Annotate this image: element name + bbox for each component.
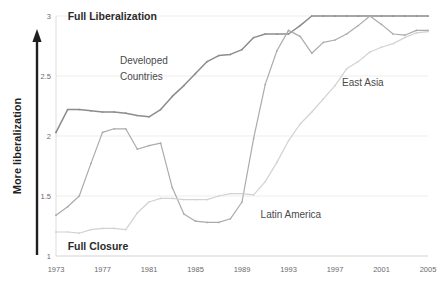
annotation-full-liberalization: Full Liberalization	[68, 10, 157, 22]
data-point	[404, 37, 406, 39]
data-point	[276, 33, 278, 35]
data-point	[311, 15, 313, 17]
gridlines	[56, 16, 428, 256]
data-point	[311, 111, 313, 113]
data-point	[392, 43, 394, 45]
data-point	[148, 116, 150, 118]
annotation-east-asia: East Asia	[342, 77, 384, 88]
data-point	[230, 54, 232, 56]
data-point	[67, 109, 69, 111]
data-point	[241, 49, 243, 51]
y-axis-title: More liberalization	[11, 97, 23, 194]
data-point	[253, 194, 255, 196]
data-point	[299, 25, 301, 27]
data-point	[55, 132, 57, 134]
annotation-full-closure: Full Closure	[68, 240, 129, 252]
annotation-developed: Developed	[120, 55, 168, 66]
data-point	[264, 84, 266, 86]
data-series	[55, 15, 429, 234]
data-point	[137, 212, 139, 214]
data-point	[392, 33, 394, 35]
y-tick-label: 2.5	[41, 72, 51, 81]
data-point	[276, 162, 278, 164]
x-axis: 197319771981198519891993199720012005	[48, 256, 437, 274]
data-point	[183, 199, 185, 201]
annotation-countries: Countries	[120, 71, 163, 82]
data-point	[125, 112, 127, 114]
data-point	[78, 195, 80, 197]
data-point	[148, 201, 150, 203]
data-point	[288, 33, 290, 35]
x-tick-label: 1997	[327, 265, 344, 274]
data-point	[67, 231, 69, 233]
y-tick-label: 3	[47, 12, 51, 21]
data-point	[90, 110, 92, 112]
data-point	[90, 229, 92, 231]
y-tick-label: 1.5	[41, 192, 51, 201]
y-axis-arrow	[32, 29, 41, 255]
x-tick-label: 1985	[187, 265, 204, 274]
data-point	[299, 123, 301, 125]
data-point	[206, 222, 208, 224]
data-point	[148, 145, 150, 147]
data-point	[102, 111, 104, 113]
data-point	[334, 15, 336, 17]
x-tick-label: 2005	[420, 265, 437, 274]
x-tick-label: 2001	[373, 265, 390, 274]
x-tick-label: 1973	[48, 265, 65, 274]
chart-annotations: Full LiberalizationFull ClosureDeveloped…	[68, 10, 384, 252]
data-point	[183, 85, 185, 87]
data-point	[357, 25, 359, 27]
data-point	[183, 213, 185, 215]
y-tick-label: 1	[47, 252, 51, 261]
data-point	[416, 15, 418, 17]
data-point	[55, 214, 57, 216]
data-point	[67, 206, 69, 208]
data-point	[206, 61, 208, 63]
data-point	[90, 163, 92, 165]
data-point	[195, 220, 197, 222]
data-point	[253, 138, 255, 140]
data-point	[195, 73, 197, 75]
arrow-head-icon	[32, 29, 41, 42]
data-point	[323, 42, 325, 44]
data-point	[427, 15, 429, 17]
data-point	[78, 232, 80, 234]
data-point	[102, 228, 104, 230]
data-point	[253, 37, 255, 39]
y-axis-title-text: More liberalization	[11, 97, 23, 194]
data-point	[218, 55, 220, 57]
series-line-developed-countries	[56, 16, 428, 132]
data-point	[206, 199, 208, 201]
data-point	[171, 198, 173, 200]
data-point	[427, 31, 429, 33]
data-point	[346, 15, 348, 17]
data-point	[299, 36, 301, 38]
data-point	[125, 128, 127, 130]
data-point	[288, 140, 290, 142]
x-tick-label: 1993	[280, 265, 297, 274]
data-point	[113, 111, 115, 113]
data-point	[276, 50, 278, 52]
data-point	[137, 148, 139, 150]
data-point	[230, 218, 232, 220]
data-point	[195, 199, 197, 201]
data-point	[369, 51, 371, 53]
data-point	[160, 142, 162, 144]
data-point	[381, 15, 383, 17]
data-point	[357, 61, 359, 63]
data-point	[171, 96, 173, 98]
data-point	[125, 229, 127, 231]
data-point	[381, 24, 383, 26]
annotation-latin-america: Latin America	[261, 209, 322, 220]
data-point	[357, 15, 359, 17]
data-point	[404, 15, 406, 17]
y-axis: 11.522.53	[41, 12, 56, 261]
data-point	[113, 128, 115, 130]
line-chart: 197319771981198519891993199720012005 11.…	[0, 0, 444, 290]
data-point	[334, 85, 336, 87]
data-point	[288, 30, 290, 32]
data-point	[55, 231, 57, 233]
data-point	[241, 201, 243, 203]
data-point	[218, 222, 220, 224]
